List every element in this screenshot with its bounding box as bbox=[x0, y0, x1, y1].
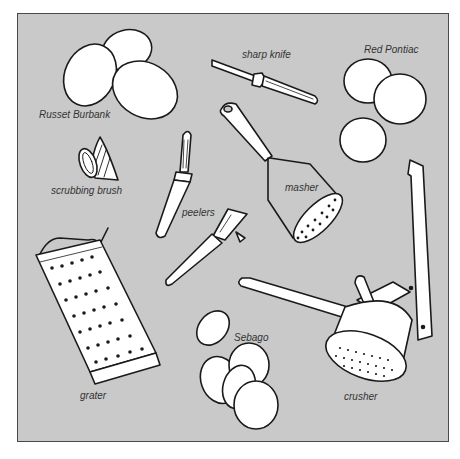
peeler-straight-icon bbox=[156, 132, 192, 238]
scrubbing-brush-icon bbox=[75, 137, 118, 180]
sebago-potatoes bbox=[190, 304, 278, 429]
label-scrubbing-brush: scrubbing brush bbox=[51, 185, 122, 196]
label-peelers: peelers bbox=[182, 207, 215, 218]
label-masher: masher bbox=[285, 182, 318, 193]
potato-tools-illustration bbox=[0, 0, 460, 459]
sharp-knife-icon bbox=[212, 60, 318, 104]
red-pontiac-potatoes bbox=[340, 59, 426, 162]
masher-icon bbox=[220, 103, 349, 250]
label-red-pontiac: Red Pontiac bbox=[364, 44, 418, 55]
label-russet-burbank: Russet Burbank bbox=[39, 109, 110, 120]
grater-icon bbox=[36, 228, 160, 384]
peeler-swivel-icon bbox=[166, 209, 247, 285]
label-crusher: crusher bbox=[344, 391, 377, 402]
label-sebago: Sebago bbox=[234, 332, 268, 343]
label-grater: grater bbox=[80, 390, 106, 401]
label-sharp-knife: sharp knife bbox=[242, 49, 291, 60]
